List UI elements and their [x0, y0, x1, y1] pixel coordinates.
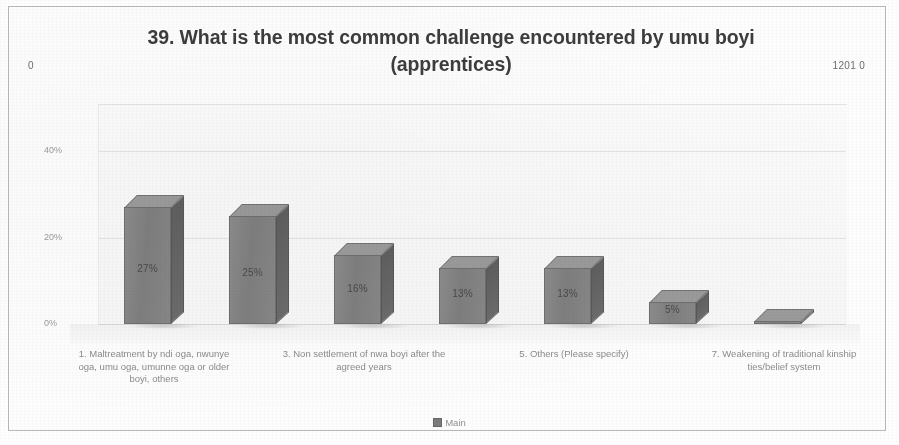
- x-axis-category-labels: 1. Maltreatment by ndi oga, nwunye oga, …: [30, 348, 870, 410]
- bar-front-face: 13%: [439, 268, 486, 324]
- legend-swatch-main: [433, 418, 442, 427]
- corner-label-right: 1201 0: [833, 60, 865, 71]
- corner-label-left: 0: [28, 60, 34, 71]
- bar-7[interactable]: [754, 308, 814, 324]
- bar-3[interactable]: 16%: [334, 242, 394, 324]
- bar-front-face: 27%: [124, 207, 171, 324]
- bar-front-face: 13%: [544, 268, 591, 324]
- bar-1[interactable]: 27%: [124, 194, 184, 324]
- bar-value-label: 5%: [650, 304, 695, 315]
- bar-5[interactable]: 13%: [544, 255, 604, 324]
- bar-value-label: 13%: [440, 288, 485, 299]
- x-axis-label-7: 7. Weakening of traditional kinship ties…: [699, 348, 869, 373]
- bar-4[interactable]: 13%: [439, 255, 499, 324]
- bar-side-face: [381, 243, 394, 324]
- bar-value-label: 13%: [545, 288, 590, 299]
- bar-front-face: 5%: [649, 302, 696, 324]
- bar-side-face: [276, 204, 289, 324]
- bar-6[interactable]: 5%: [649, 289, 709, 324]
- chart-page: 0 1201 0 39. What is the most common cha…: [0, 0, 899, 445]
- bar-side-face: [171, 196, 184, 324]
- bar-value-label: 16%: [335, 283, 380, 294]
- x-axis-label-1: 1. Maltreatment by ndi oga, nwunye oga, …: [69, 348, 239, 386]
- bar-2[interactable]: 25%: [229, 203, 289, 324]
- plot-area: 0%20%40% 27%25%16%13%13%5%: [30, 96, 860, 344]
- y-axis-tick-label: 40%: [44, 145, 62, 155]
- bar-value-label: 25%: [230, 267, 275, 278]
- bar-front-face: [754, 321, 801, 324]
- bar-front-face: 25%: [229, 216, 276, 324]
- chart-legend: Main: [0, 412, 899, 430]
- bar-series-main: 27%25%16%13%13%5%: [98, 96, 858, 336]
- y-axis-tick-label: 0%: [44, 318, 57, 328]
- y-axis-tick-label: 20%: [44, 232, 62, 242]
- x-axis-label-3: 3. Non settlement of nwa boyi after the …: [279, 348, 449, 373]
- legend-label-main: Main: [445, 417, 466, 428]
- x-axis-label-5: 5. Others (Please specify): [489, 348, 659, 361]
- bar-value-label: 27%: [125, 263, 170, 274]
- chart-title: 39. What is the most common challenge en…: [86, 24, 816, 78]
- bar-front-face: 16%: [334, 255, 381, 324]
